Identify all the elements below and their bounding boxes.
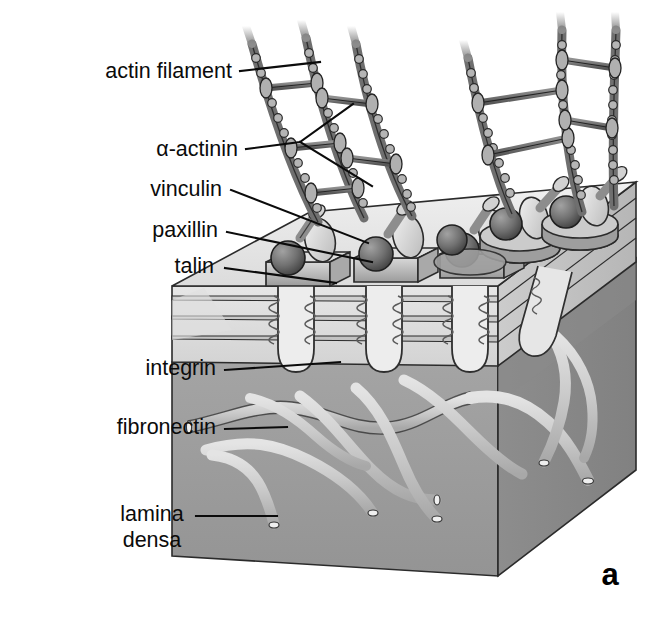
paxillin-sphere	[490, 208, 522, 240]
label-fibronectin: fibronectin	[117, 415, 216, 439]
label-lamina-densa-line2: densa	[123, 528, 182, 552]
paxillin-sphere	[437, 225, 467, 255]
label-integrin: integrin	[145, 356, 216, 380]
focal-adhesion-diagram: actin filament α-actinin vinculin paxill…	[0, 0, 660, 630]
label-actin-filament: actin filament	[105, 59, 232, 83]
label-vinculin: vinculin	[150, 177, 222, 201]
figure-canvas: actin filament α-actinin vinculin paxill…	[0, 0, 660, 630]
label-talin: talin	[175, 254, 214, 278]
label-paxillin: paxillin	[152, 218, 218, 242]
label-alpha-actinin: α-actinin	[156, 137, 238, 161]
label-lamina-densa-line1: lamina	[120, 502, 183, 526]
panel-label: a	[601, 557, 619, 592]
